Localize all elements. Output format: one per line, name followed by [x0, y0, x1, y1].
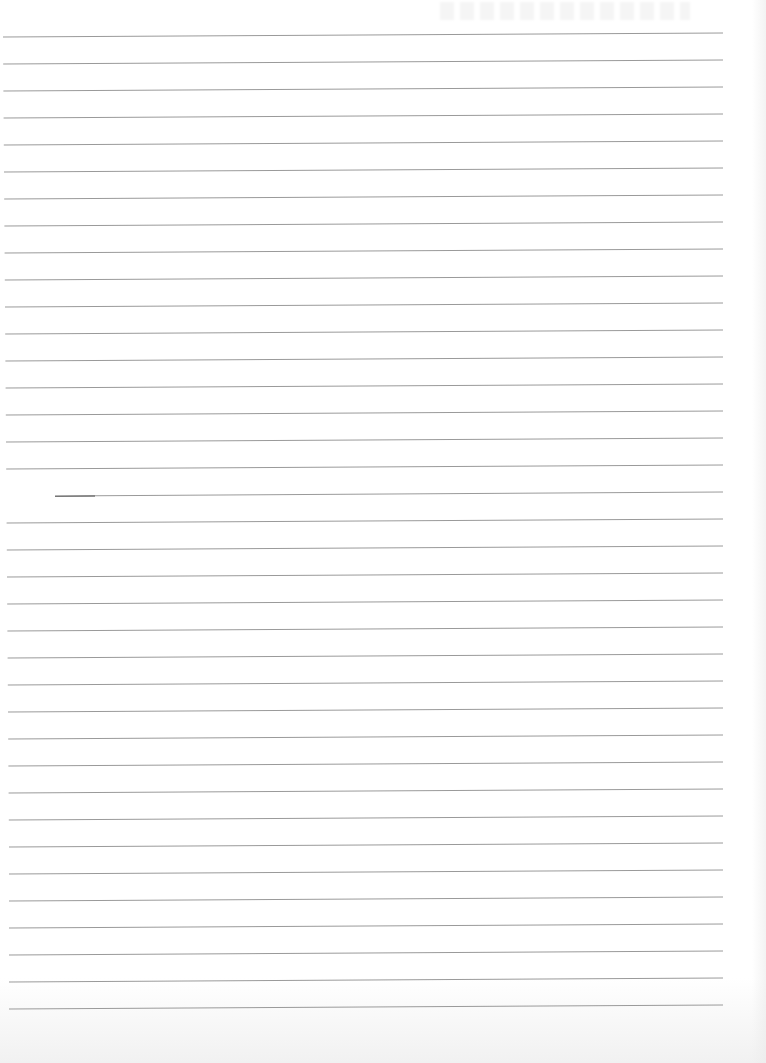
ruled-line	[5, 330, 723, 334]
ruled-line	[9, 1005, 723, 1009]
ruled-line	[4, 168, 723, 172]
ruled-line	[7, 519, 723, 523]
ruled-line	[6, 384, 723, 388]
ruled-line	[5, 249, 723, 253]
ruled-line	[9, 951, 723, 955]
page-edge-shadow	[752, 0, 766, 1063]
ruled-line	[55, 492, 723, 496]
ruled-line	[9, 978, 723, 982]
ruled-line	[8, 762, 723, 766]
ruled-line	[3, 60, 723, 64]
ruled-line	[7, 546, 723, 550]
ruled-line	[7, 627, 723, 631]
ruled-lines	[0, 0, 766, 1063]
ruled-line	[6, 411, 723, 415]
ruled-line	[4, 114, 723, 118]
ruled-line	[7, 573, 723, 577]
ruled-line	[8, 735, 723, 739]
ruled-line	[9, 897, 723, 901]
ruled-line	[4, 222, 723, 226]
ruled-line	[9, 843, 723, 847]
ruled-line	[6, 438, 723, 442]
ruled-line	[5, 303, 723, 307]
ruled-line	[5, 357, 723, 361]
ruled-line	[4, 195, 723, 199]
ruled-line	[5, 276, 723, 280]
ruled-page	[0, 0, 766, 1063]
ruled-line	[8, 654, 723, 658]
ruled-line	[4, 141, 723, 145]
ruled-line	[9, 870, 723, 874]
ruled-line	[8, 708, 723, 712]
ruled-line	[7, 600, 723, 604]
ruled-line	[3, 33, 723, 37]
ruled-line	[9, 924, 723, 928]
ruled-line	[9, 816, 723, 820]
ruled-line	[8, 681, 723, 685]
ruled-line	[3, 87, 723, 91]
ruled-line	[6, 465, 723, 469]
ruled-line	[9, 789, 723, 793]
